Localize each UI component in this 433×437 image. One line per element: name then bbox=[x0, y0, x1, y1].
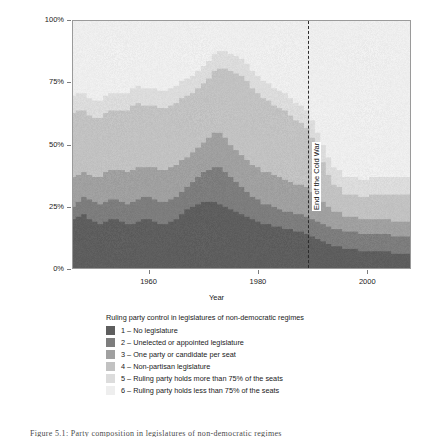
y-tick-mark bbox=[67, 82, 71, 83]
legend-swatch-icon-3 bbox=[106, 350, 115, 359]
y-tick-mark bbox=[67, 207, 71, 208]
legend-swatch-icon-4 bbox=[106, 362, 115, 371]
legend-title: Ruling party control in legislatures of … bbox=[106, 313, 406, 322]
legend-item-6: 6 – Ruling party holds less than 75% of … bbox=[106, 385, 406, 397]
y-tick-label-0: 0% bbox=[53, 264, 64, 273]
stacked-area-chart bbox=[73, 21, 410, 268]
legend-label-1: 1 – No legislature bbox=[121, 326, 178, 335]
x-tick-mark bbox=[149, 270, 150, 274]
legend-swatch-icon-1 bbox=[106, 326, 115, 335]
legend-item-1: 1 – No legislature bbox=[106, 325, 406, 337]
legend-item-3: 3 – One party or candidate per seat bbox=[106, 349, 406, 361]
cold-war-vline bbox=[308, 21, 309, 268]
legend-item-4: 4 – Non-partisan legislature bbox=[106, 361, 406, 373]
figure-container: End of the Cold War Proportion of non-de… bbox=[0, 0, 433, 437]
x-tick-label-2000: 2000 bbox=[345, 277, 389, 286]
figure-caption: Figure 5.1: Party composition in legisla… bbox=[30, 429, 410, 437]
x-tick-label-1980: 1980 bbox=[236, 277, 280, 286]
legend-item-5: 5 – Ruling party holds more than 75% of … bbox=[106, 373, 406, 385]
legend-label-6: 6 – Ruling party holds less than 75% of … bbox=[121, 386, 279, 395]
x-axis-title: Year bbox=[0, 293, 433, 302]
y-tick-label-50: 50% bbox=[49, 140, 64, 149]
legend-label-3: 3 – One party or candidate per seat bbox=[121, 350, 236, 359]
legend-swatch-icon-5 bbox=[106, 374, 115, 383]
legend-item-2: 2 – Unelected or appointed legislature bbox=[106, 337, 406, 349]
legend-swatch-icon-2 bbox=[106, 338, 115, 347]
legend-label-4: 4 – Non-partisan legislature bbox=[121, 362, 210, 371]
legend-label-5: 5 – Ruling party holds more than 75% of … bbox=[121, 374, 283, 383]
y-tick-label-75: 75% bbox=[49, 77, 64, 86]
legend-swatch-icon-6 bbox=[106, 386, 115, 395]
plot-area: End of the Cold War bbox=[72, 20, 411, 269]
chart-legend: Ruling party control in legislatures of … bbox=[106, 313, 406, 397]
x-tick-label-1960: 1960 bbox=[127, 277, 171, 286]
y-tick-mark bbox=[67, 145, 71, 146]
y-tick-mark bbox=[67, 20, 71, 21]
x-tick-mark bbox=[367, 270, 368, 274]
y-tick-label-25: 25% bbox=[49, 202, 64, 211]
legend-items: 1 – No legislature2 – Unelected or appoi… bbox=[106, 325, 406, 397]
legend-label-2: 2 – Unelected or appointed legislature bbox=[121, 338, 244, 347]
y-tick-label-100: 100% bbox=[45, 15, 64, 24]
x-tick-mark bbox=[258, 270, 259, 274]
y-tick-mark bbox=[67, 269, 71, 270]
cold-war-label: End of the Cold War bbox=[312, 142, 321, 211]
